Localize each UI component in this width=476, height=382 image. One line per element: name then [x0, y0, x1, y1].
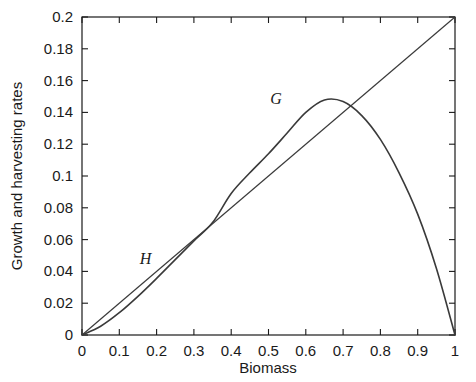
svg-text:0.02: 0.02 — [44, 294, 73, 311]
x-axis-tick-labels: 00.10.20.30.40.50.60.70.80.91 — [78, 342, 459, 359]
svg-text:0.2: 0.2 — [52, 8, 73, 25]
svg-text:0.04: 0.04 — [44, 262, 73, 279]
svg-text:0: 0 — [78, 342, 86, 359]
growth-rate-curve-g — [82, 99, 455, 335]
svg-text:0.6: 0.6 — [295, 342, 316, 359]
svg-text:0.2: 0.2 — [146, 342, 167, 359]
svg-text:0.16: 0.16 — [44, 72, 73, 89]
svg-text:0.7: 0.7 — [333, 342, 354, 359]
chart-plot-area: 00.020.040.060.080.10.120.140.160.180.2 … — [0, 0, 476, 382]
svg-text:1: 1 — [451, 342, 459, 359]
svg-text:0.08: 0.08 — [44, 199, 73, 216]
y-axis-title: Growth and harvesting rates — [8, 82, 25, 270]
x-axis-title: Biomass — [239, 359, 297, 376]
svg-text:0.9: 0.9 — [407, 342, 428, 359]
svg-text:0.1: 0.1 — [109, 342, 130, 359]
svg-text:0.1: 0.1 — [52, 167, 73, 184]
curve-label-g: G — [270, 90, 282, 107]
svg-text:0.18: 0.18 — [44, 40, 73, 57]
svg-text:0.5: 0.5 — [258, 342, 279, 359]
harvesting-rate-line-h — [82, 17, 455, 335]
svg-text:0: 0 — [65, 326, 73, 343]
svg-text:0.06: 0.06 — [44, 231, 73, 248]
svg-text:0.12: 0.12 — [44, 135, 73, 152]
svg-text:0.8: 0.8 — [370, 342, 391, 359]
curve-label-h: H — [139, 250, 153, 267]
chart-figure: 00.020.040.060.080.10.120.140.160.180.2 … — [0, 0, 476, 382]
y-axis-tick-labels: 00.020.040.060.080.10.120.140.160.180.2 — [44, 8, 73, 343]
svg-text:0.14: 0.14 — [44, 103, 73, 120]
svg-text:0.4: 0.4 — [221, 342, 242, 359]
svg-text:0.3: 0.3 — [183, 342, 204, 359]
